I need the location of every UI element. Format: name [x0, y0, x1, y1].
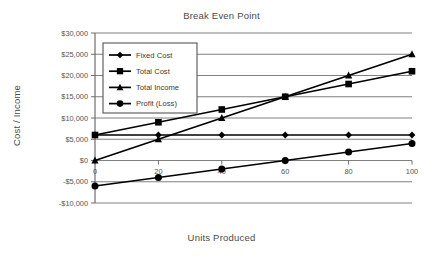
diamond-marker: [345, 132, 352, 139]
legend-label: Profit (Loss): [136, 99, 177, 108]
diamond-marker: [218, 132, 225, 139]
y-tick-label: $0: [80, 156, 88, 165]
series-fixed-cost: [92, 132, 416, 139]
y-tick-label: -$10,000: [59, 199, 88, 208]
x-tick-label: 100: [406, 167, 418, 176]
square-marker: [117, 68, 123, 74]
legend-label: Total Cost: [136, 67, 171, 76]
diamond-marker: [409, 132, 416, 139]
y-tick-label: $10,000: [61, 114, 88, 123]
y-tick-labels: -$10,000-$5,000$0$5,000$10,000$15,000$20…: [59, 29, 88, 208]
y-tick-label: $30,000: [61, 29, 88, 38]
circle-marker: [155, 174, 162, 181]
square-marker: [92, 132, 99, 139]
y-tick-label: $25,000: [61, 50, 88, 59]
plot-area: -$10,000-$5,000$0$5,000$10,000$15,000$20…: [0, 0, 443, 262]
x-tick-label: 60: [281, 167, 289, 176]
square-marker: [409, 68, 416, 75]
circle-marker: [282, 157, 289, 164]
y-tick-label: $20,000: [61, 71, 88, 80]
legend-label: Total Income: [136, 83, 179, 92]
series-line: [95, 144, 412, 187]
x-tick-label: 80: [344, 167, 352, 176]
circle-marker: [117, 100, 124, 107]
circle-marker: [409, 140, 416, 147]
circle-marker: [218, 166, 225, 173]
square-marker: [345, 81, 352, 88]
diamond-marker: [282, 132, 289, 139]
y-axis: [91, 33, 95, 203]
y-tick-label: $5,000: [65, 135, 88, 144]
legend-label: Fixed Cost: [136, 51, 173, 60]
x-tick-label: 0: [93, 167, 97, 176]
square-marker: [219, 106, 226, 113]
x-tick-labels: 020406080100: [93, 167, 418, 176]
circle-marker: [345, 149, 352, 156]
y-tick-label: $15,000: [61, 92, 88, 101]
break-even-chart: Break Even Point Cost / Income Units Pro…: [0, 0, 443, 262]
circle-marker: [92, 183, 99, 190]
square-marker: [155, 119, 162, 126]
legend: Fixed CostTotal CostTotal IncomeProfit (…: [103, 43, 197, 113]
y-tick-label: -$5,000: [63, 177, 88, 186]
